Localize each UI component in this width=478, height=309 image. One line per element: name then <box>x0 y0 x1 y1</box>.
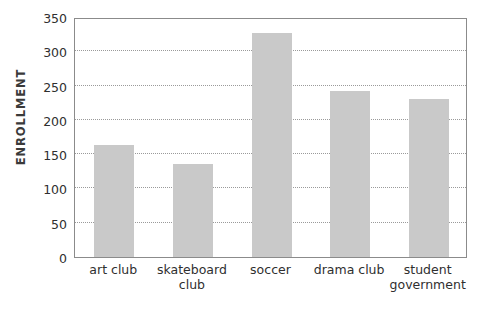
x-axis-tick-labels: art clubskateboardclubsoccerdrama clubst… <box>74 262 467 307</box>
y-tick-label: 300 <box>7 45 67 60</box>
bar-chart: ENROLLMENT 050100150200250300350 art clu… <box>0 0 478 309</box>
x-tick-label: studentgovernment <box>388 262 467 292</box>
x-tick-label-line: drama club <box>310 262 389 277</box>
y-tick-label: 350 <box>7 11 67 26</box>
x-tick-label-line: club <box>153 277 232 292</box>
y-tick-label: 50 <box>7 216 67 231</box>
x-tick-label-line: skateboard <box>153 262 232 277</box>
x-tick-label-line: soccer <box>231 262 310 277</box>
x-tick-label: drama club <box>310 262 389 277</box>
x-tick-label-line: student <box>388 262 467 277</box>
y-tick-label: 200 <box>7 113 67 128</box>
x-tick-label: soccer <box>231 262 310 277</box>
x-tick-label: skateboardclub <box>153 262 232 292</box>
y-tick-label: 250 <box>7 79 67 94</box>
y-axis-tick-labels: 050100150200250300350 <box>74 18 467 258</box>
x-tick-label: art club <box>74 262 153 277</box>
y-tick-label: 150 <box>7 148 67 163</box>
y-tick-label: 0 <box>7 251 67 266</box>
x-tick-label-line: art club <box>74 262 153 277</box>
x-tick-label-line: government <box>388 277 467 292</box>
y-tick-label: 100 <box>7 182 67 197</box>
